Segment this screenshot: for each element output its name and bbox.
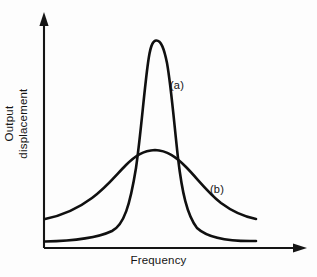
curve-a-lightly-damped <box>45 40 256 241</box>
x-axis-title: Frequency <box>0 254 317 268</box>
curve-b-heavily-damped <box>45 150 256 219</box>
figure-canvas: (a) (b) Frequency Output displacement <box>0 0 317 277</box>
plot-area <box>0 0 317 277</box>
y-axis-title: Output displacement <box>3 76 30 172</box>
curve-a-callout-label: (a) <box>170 79 184 92</box>
y-axis-title-line2: displacement <box>17 76 31 172</box>
x-axis-arrow-icon <box>293 243 307 252</box>
y-axis-arrow-icon <box>39 12 48 26</box>
y-axis-title-line1: Output <box>3 76 17 172</box>
curve-b-callout-label: (b) <box>210 183 224 196</box>
